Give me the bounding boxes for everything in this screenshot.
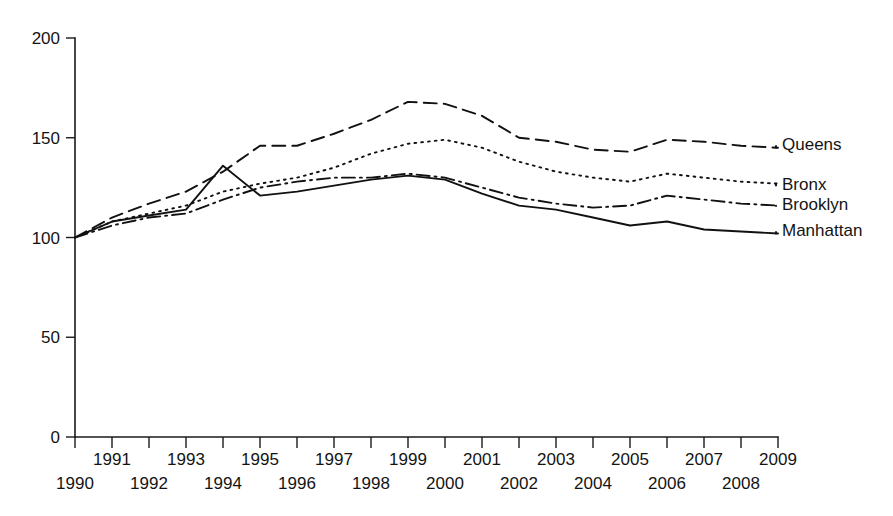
x-axis-tick-label: 2005 [611, 450, 649, 469]
x-axis-tick-label: 1999 [389, 450, 427, 469]
legend-label-manhattan: Manhattan [782, 221, 862, 240]
legend-label-bronx: Bronx [782, 175, 827, 194]
line-chart-figure: 050100150200 199019911992199319941995199… [0, 0, 893, 516]
series-line-queens [75, 102, 778, 238]
x-axis: 1990199119921993199419951996199719981999… [56, 437, 797, 493]
legend-item-bronx: Bronx [776, 175, 827, 194]
x-axis-tick-label: 1995 [241, 450, 279, 469]
x-axis-tick-label: 2002 [500, 474, 538, 493]
x-axis-tick-label: 2009 [759, 450, 797, 469]
x-axis-tick-label: 2000 [426, 474, 464, 493]
y-axis-tick-label: 50 [41, 328, 60, 347]
y-axis-tick-label: 150 [32, 129, 60, 148]
series-line-brooklyn [75, 174, 778, 238]
x-axis-tick-label: 1990 [56, 474, 94, 493]
x-axis-tick-label: 2008 [722, 474, 760, 493]
chart-legend: QueensBronxBrooklynManhattan [776, 135, 862, 240]
y-axis-tick-label: 200 [32, 29, 60, 48]
legend-label-queens: Queens [782, 135, 842, 154]
x-axis-tick-label: 1991 [93, 450, 131, 469]
x-axis-tick-label: 1994 [204, 474, 242, 493]
x-axis-tick-label: 2006 [648, 474, 686, 493]
x-axis-tick-label: 2004 [574, 474, 612, 493]
legend-item-brooklyn: Brooklyn [776, 195, 848, 214]
y-axis-tick-label: 100 [32, 229, 60, 248]
y-axis: 050100150200 [32, 29, 75, 447]
x-axis-tick-label: 2007 [685, 450, 723, 469]
x-axis-tick-label: 1998 [352, 474, 390, 493]
x-axis-tick-label: 1996 [278, 474, 316, 493]
chart-canvas: 050100150200 199019911992199319941995199… [0, 0, 893, 516]
x-axis-tick-label: 1993 [167, 450, 205, 469]
legend-item-queens: Queens [776, 135, 842, 154]
x-axis-tick-label: 2003 [537, 450, 575, 469]
x-axis-tick-label: 1992 [130, 474, 168, 493]
legend-label-brooklyn: Brooklyn [782, 195, 848, 214]
series-lines [75, 102, 778, 238]
y-axis-tick-label: 0 [51, 428, 60, 447]
legend-item-manhattan: Manhattan [776, 221, 862, 240]
x-axis-tick-label: 2001 [463, 450, 501, 469]
x-axis-tick-label: 1997 [315, 450, 353, 469]
